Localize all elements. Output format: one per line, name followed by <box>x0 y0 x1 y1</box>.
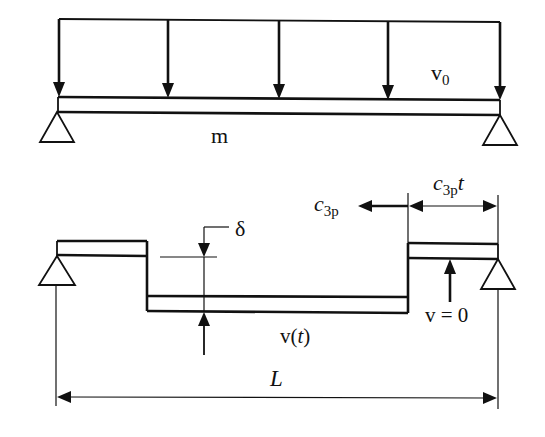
arrow-left-icon <box>57 391 71 403</box>
load-arrow-icon <box>273 20 285 99</box>
wave-speed-label: c3p <box>314 191 339 219</box>
wave-speed-indicator: c3p <box>314 191 408 219</box>
pin-support-left-icon <box>40 112 74 142</box>
pin-support-right-icon <box>483 115 517 145</box>
arrow-left-icon <box>409 200 423 212</box>
load-arrow-icon <box>53 19 65 97</box>
arrow-right-icon <box>483 200 497 212</box>
arrow-down-icon <box>198 243 210 257</box>
bottom-panel: δ v(t) v = 0 c3p c3pt <box>39 170 515 409</box>
rest-velocity-label: v = 0 <box>425 303 468 327</box>
rest-velocity-indicator: v = 0 <box>425 259 468 327</box>
span-label: L <box>269 366 283 391</box>
initial-velocity-label: v0 <box>431 60 450 88</box>
load-arrow-icon <box>494 22 506 100</box>
span-dimension: L <box>57 366 497 404</box>
travel-distance-label: c3pt <box>433 170 465 198</box>
top-panel: m v0 <box>40 19 517 148</box>
beam-impulse-diagram: m v0 <box>0 0 545 437</box>
pin-support-right-icon <box>481 259 515 289</box>
deflection-label: δ <box>235 216 245 241</box>
load-arrow-icon <box>382 21 394 100</box>
moving-velocity-label: v(t) <box>280 324 310 348</box>
top-beam <box>58 97 500 115</box>
load-arrow-icon <box>162 20 174 98</box>
arrow-up-icon <box>444 259 456 274</box>
mass-label: m <box>211 123 228 148</box>
pin-support-left-icon <box>39 256 75 285</box>
arrow-up-icon <box>198 312 210 326</box>
arrow-left-icon <box>358 200 372 212</box>
travel-distance-dimension: c3pt <box>409 170 497 212</box>
arrow-right-icon <box>483 392 497 404</box>
deflection-dimension: δ <box>160 216 245 355</box>
